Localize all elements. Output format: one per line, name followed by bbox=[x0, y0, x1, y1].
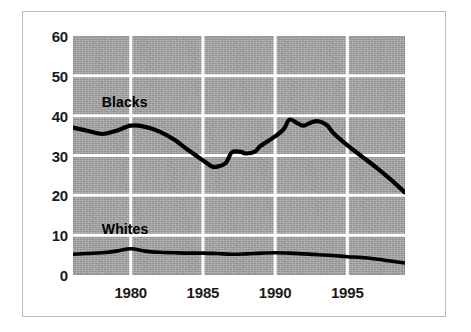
x-tick-label-1990: 1990 bbox=[259, 285, 292, 300]
x-tick-label-1980: 1980 bbox=[114, 285, 147, 300]
x-tick-label-1985: 1985 bbox=[187, 285, 220, 300]
x-axis-tick-labels: 1980198519901995 bbox=[0, 0, 471, 332]
figure: Blacks Whites 0102030405060 198019851990… bbox=[0, 0, 471, 332]
x-tick-label-1995: 1995 bbox=[331, 285, 364, 300]
